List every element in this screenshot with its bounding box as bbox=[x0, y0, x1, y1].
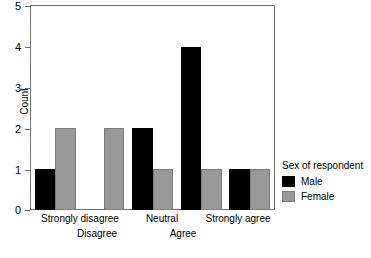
legend-swatch-male-icon bbox=[282, 176, 295, 187]
bar-neutral-male bbox=[132, 128, 153, 210]
x-label-neutral: Neutral bbox=[127, 213, 197, 225]
legend-title: Sex of respondent bbox=[282, 160, 371, 171]
x-label-disagree: Disagree bbox=[62, 228, 132, 240]
y-tick-label: 4 bbox=[15, 41, 21, 53]
y-tick-5: 5 bbox=[0, 0, 30, 12]
legend-item-male[interactable]: Male bbox=[282, 176, 371, 187]
legend-label-male: Male bbox=[301, 176, 323, 187]
y-tick-label: 0 bbox=[15, 204, 21, 216]
bar-strongly-agree-female bbox=[250, 169, 271, 210]
bar-neutral-female bbox=[153, 169, 174, 210]
bar-agree-female bbox=[201, 169, 222, 210]
y-tick-label: 5 bbox=[15, 0, 21, 12]
bar-strongly-disagree-male bbox=[35, 169, 56, 210]
bar-strongly-disagree-female bbox=[55, 128, 76, 210]
y-tick-1: 1 bbox=[0, 164, 30, 176]
y-tick-label: 3 bbox=[15, 82, 21, 94]
legend-item-female[interactable]: Female bbox=[282, 191, 371, 202]
x-label-strongly-agree: Strongly agree bbox=[190, 213, 286, 225]
y-tick-label: 1 bbox=[15, 164, 21, 176]
legend: Sex of respondent Male Female bbox=[282, 160, 371, 206]
y-tick-label: 2 bbox=[15, 123, 21, 135]
x-label-strongly-disagree: Strongly disagree bbox=[26, 213, 134, 225]
legend-label-female: Female bbox=[301, 191, 334, 202]
bar-agree-male bbox=[181, 47, 202, 210]
bar-chart: Count 5 4 3 2 1 0 Strongly disagree bbox=[0, 0, 371, 258]
y-tick-2: 2 bbox=[0, 123, 30, 135]
y-tick-4: 4 bbox=[0, 41, 30, 53]
y-tick-3: 3 bbox=[0, 82, 30, 94]
legend-swatch-female-icon bbox=[282, 191, 295, 202]
bar-disagree-female bbox=[104, 128, 125, 210]
plot-area bbox=[31, 6, 274, 210]
bar-strongly-agree-male bbox=[229, 169, 250, 210]
x-label-agree: Agree bbox=[148, 228, 218, 240]
